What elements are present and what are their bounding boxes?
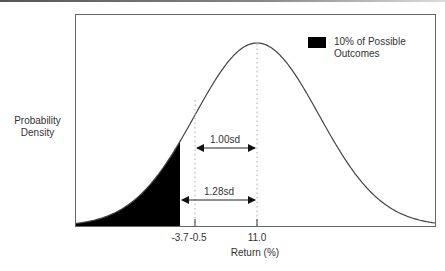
legend-label-line2: Outcomes: [334, 48, 434, 60]
legend: 10% of Possible Outcomes: [308, 36, 434, 60]
y-axis-label-line2: Density: [0, 127, 75, 139]
tick-label-minus-3.7: -3.7: [171, 232, 188, 243]
legend-swatch: [308, 37, 326, 48]
tick-label-11.0: 11.0: [248, 232, 267, 243]
density-curve: [76, 43, 435, 223]
legend-label: 10% of Possible Outcomes: [334, 36, 434, 60]
legend-label-line1: 10% of Possible: [334, 36, 434, 48]
shaded-tail-area: [76, 141, 180, 226]
x-axis-label: Return (%): [205, 247, 305, 258]
y-axis-label: Probability Density: [0, 115, 75, 139]
annotation-1.28sd: 1.28sd: [204, 186, 234, 197]
y-axis-label-line1: Probability: [0, 115, 75, 127]
annotation-1sd: 1.00sd: [210, 134, 240, 145]
tick-label-minus-0.5: -0.5: [189, 232, 206, 243]
